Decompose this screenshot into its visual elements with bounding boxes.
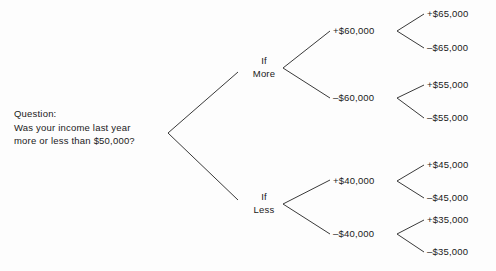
edge-plus40-to-plus45	[397, 165, 424, 181]
branch-node-if-less: If Less	[248, 191, 280, 216]
branch-node-if-more: If More	[248, 55, 280, 80]
leaf-minus-45000: –$45,000	[427, 192, 468, 204]
branch-node-if-less-line-1: If	[248, 191, 280, 204]
root-question-line-1: Question:	[14, 107, 135, 121]
edge-minus40-to-plus35	[397, 220, 424, 234]
edge-less-to-minus40	[283, 204, 330, 234]
leaf-plus-55000: +$55,000	[427, 79, 469, 91]
edge-minus60-to-minus55	[397, 98, 424, 118]
edge-plus60-to-minus65	[397, 31, 424, 48]
root-question-line-2: Was your income last year	[14, 121, 135, 135]
node-plus-60000: +$60,000	[333, 25, 375, 37]
leaf-plus-35000: +$35,000	[427, 214, 469, 226]
leaf-minus-65000: –$65,000	[427, 42, 468, 54]
edge-minus40-to-minus35	[397, 234, 424, 252]
leaf-plus-45000: +$45,000	[427, 159, 469, 171]
edge-more-to-plus60	[283, 31, 330, 68]
leaf-plus-65000: +$65,000	[427, 8, 469, 20]
leaf-minus-55000: –$55,000	[427, 112, 468, 124]
edge-root-to-less	[168, 133, 238, 200]
root-question-line-3: more or less than $50,000?	[14, 134, 135, 148]
root-question: Question: Was your income last year more…	[14, 107, 135, 148]
node-minus-40000: –$40,000	[333, 228, 374, 240]
branch-node-if-more-line-1: If	[248, 55, 280, 68]
branch-node-if-more-line-2: More	[248, 68, 280, 81]
edge-minus60-to-plus55	[397, 85, 424, 98]
branch-node-if-less-line-2: Less	[248, 204, 280, 217]
edge-less-to-plus40	[283, 180, 330, 204]
node-plus-40000: +$40,000	[333, 175, 375, 187]
edge-more-to-minus60	[283, 68, 330, 98]
decision-tree-diagram: Question: Was your income last year more…	[0, 0, 496, 271]
edge-plus40-to-minus45	[397, 181, 424, 198]
node-minus-60000: –$60,000	[333, 92, 374, 104]
edge-root-to-more	[168, 72, 238, 133]
edge-plus60-to-plus65	[397, 14, 424, 31]
leaf-minus-35000: –$35,000	[427, 246, 468, 258]
